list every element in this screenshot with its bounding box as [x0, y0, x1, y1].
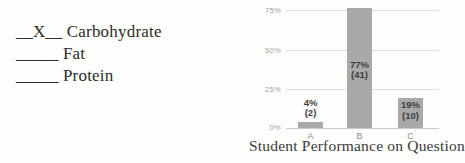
- bar-C: 19% (10): [398, 98, 423, 128]
- y-tick-0: 0%: [257, 123, 281, 132]
- bar-A-data-label: 4% (2): [304, 98, 318, 119]
- bar-B-data-label: 77% (41): [350, 60, 369, 81]
- plot-area: 75% 50% 25% 0% 4% (2) 77% (41): [286, 5, 439, 129]
- bar-chart: 75% 50% 25% 0% 4% (2) 77% (41): [245, 0, 465, 163]
- answer-list: __X__ Carbohydrate _____ Fat _____ Prote…: [16, 21, 162, 87]
- bar-B: 77% (41): [347, 8, 372, 128]
- answer-blank: _____: [16, 66, 59, 85]
- answer-label: Carbohydrate: [67, 22, 162, 41]
- y-tick-50: 50%: [257, 46, 281, 55]
- answer-blank: __X__: [16, 22, 62, 41]
- bar-C-data-label: 19% (10): [401, 100, 420, 121]
- answer-line-fat: _____ Fat: [16, 43, 162, 65]
- page: __X__ Carbohydrate _____ Fat _____ Prote…: [0, 0, 465, 163]
- answer-line-protein: _____ Protein: [16, 65, 162, 87]
- answer-label: Protein: [63, 66, 114, 85]
- bar-A: 4% (2): [298, 122, 323, 128]
- y-tick-25: 25%: [257, 85, 281, 94]
- chart-caption: Student Performance on Question 9: [249, 137, 465, 155]
- answer-blank: _____: [16, 44, 59, 63]
- answer-line-carbohydrate: __X__ Carbohydrate: [16, 21, 162, 43]
- answer-label: Fat: [63, 44, 85, 63]
- y-tick-75: 75%: [257, 6, 281, 15]
